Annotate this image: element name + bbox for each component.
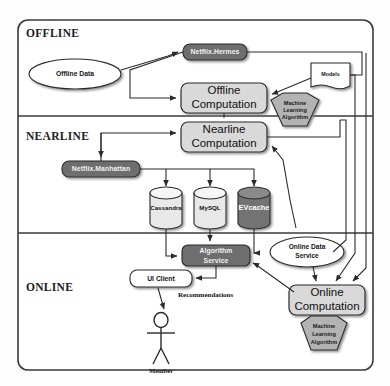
online-data-service-ellipse [270, 237, 344, 267]
database-evcache [238, 187, 270, 229]
ui-client-box [130, 270, 192, 287]
nearline-computation-box [181, 122, 267, 152]
models-document [311, 63, 350, 89]
tier-title-nearline: NEARLINE [26, 130, 89, 142]
offline-data-ellipse [29, 59, 121, 89]
online-computation-box [289, 285, 365, 315]
database-cassandra [150, 187, 182, 229]
architecture-diagram: OFFLINE NEARLINE ONLINE Offline Data Net… [0, 0, 390, 386]
tier-title-offline: OFFLINE [26, 27, 79, 39]
netflix-hermes-box [183, 44, 247, 60]
database-mysql [194, 187, 226, 229]
netflix-manhattan-box [62, 161, 140, 177]
tier-title-online: ONLINE [26, 281, 73, 293]
algorithm-service-box [182, 245, 250, 266]
diagram-canvas [0, 0, 390, 386]
offline-computation-box [181, 83, 267, 113]
